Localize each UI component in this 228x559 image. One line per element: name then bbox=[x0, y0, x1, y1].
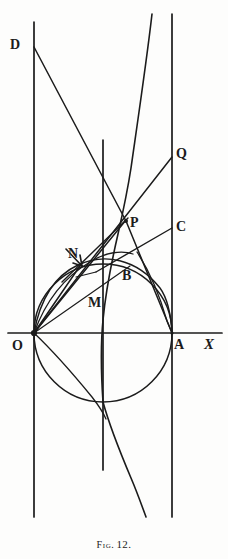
curve-upper-branch bbox=[102, 14, 153, 402]
label-axis-x: X bbox=[204, 337, 214, 352]
label-point-a: A bbox=[174, 338, 184, 352]
geometry-drawing bbox=[0, 0, 228, 559]
label-point-m: M bbox=[88, 296, 101, 310]
caption-word: Fig. bbox=[97, 539, 115, 550]
curve-lower-branch bbox=[103, 402, 146, 517]
figure-container: D Q P C N B M O A X Fig.12. bbox=[0, 0, 228, 559]
label-point-c: C bbox=[176, 220, 186, 234]
label-point-q: Q bbox=[176, 147, 187, 161]
label-point-o: O bbox=[12, 339, 23, 353]
label-point-d: D bbox=[10, 38, 20, 52]
label-point-p: P bbox=[130, 216, 139, 230]
figure-caption: Fig.12. bbox=[0, 535, 228, 551]
point-dot-a bbox=[170, 331, 173, 334]
ray-o-to-n bbox=[34, 263, 82, 333]
caption-number: 12. bbox=[116, 538, 131, 550]
point-dot-o bbox=[31, 330, 37, 336]
segment-p-to-a bbox=[126, 221, 172, 333]
point-dot-p bbox=[124, 219, 128, 223]
label-point-n: N bbox=[68, 247, 78, 261]
segment-d-to-p bbox=[34, 47, 126, 221]
label-point-b: B bbox=[122, 269, 131, 283]
lens-arc-lower bbox=[34, 333, 106, 419]
